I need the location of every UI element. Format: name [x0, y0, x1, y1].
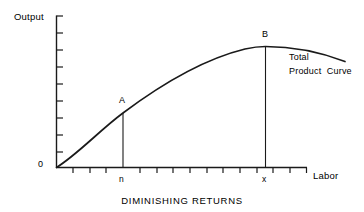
figure-caption: DIMINISHING RETURNS — [0, 195, 364, 206]
y-axis-ticks — [57, 16, 64, 152]
plot-area — [0, 0, 364, 212]
x-axis-ticks — [73, 168, 307, 174]
origin-label: 0 — [38, 159, 43, 170]
curve-label-line2: Product Curve — [289, 66, 352, 77]
total-product-curve — [57, 47, 346, 168]
point-label-b: B — [262, 29, 268, 40]
x-tick-label-x: x — [262, 174, 266, 184]
diminishing-returns-figure: Output 0 A B n x Labor Total Product Cur… — [0, 0, 364, 212]
x-axis-title: Labor — [313, 170, 338, 181]
x-tick-label-n: n — [119, 174, 124, 184]
point-label-a: A — [119, 95, 125, 106]
curve-label-line1: Total — [289, 52, 309, 63]
y-axis-title: Output — [14, 11, 44, 22]
